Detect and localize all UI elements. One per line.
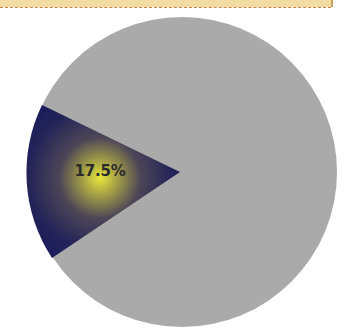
slice-data-label: 17.5% (74, 162, 125, 180)
pie-chart (0, 0, 345, 332)
